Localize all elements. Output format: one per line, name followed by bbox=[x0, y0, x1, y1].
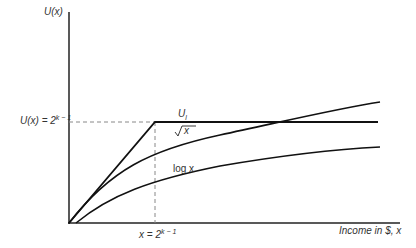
y-axis-label: U(x) bbox=[44, 6, 63, 17]
x-marker-label: x = 2k − 1 bbox=[139, 228, 176, 240]
series-sqrt-label: x bbox=[184, 125, 189, 136]
series-log-label: log x bbox=[173, 163, 194, 174]
series-ul-label: Ul bbox=[178, 108, 187, 121]
series-ul-line bbox=[69, 122, 378, 223]
series-log-line bbox=[76, 147, 380, 223]
series-sqrt-line bbox=[69, 102, 380, 223]
x-axis-label: Income in $, x bbox=[339, 225, 401, 236]
y-marker-label: U(x) = 2k − 1 bbox=[20, 114, 71, 126]
